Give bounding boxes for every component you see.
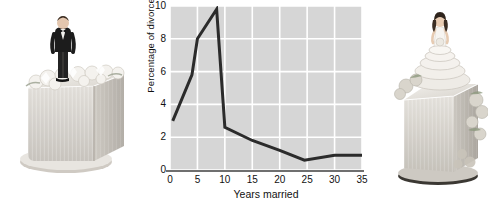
y-axis-tick-label: 6: [160, 67, 166, 77]
y-axis-tick-label: 2: [160, 132, 166, 142]
plot-area: [170, 6, 362, 170]
x-axis-tick-label: 10: [219, 175, 230, 185]
divorce-rate-line-chart: Percentage of divorces 0246810 051015202…: [132, 0, 376, 208]
bride-cake-illustration: [392, 4, 488, 200]
groom-cake-photo: [8, 16, 140, 192]
y-axis-tick-label: 8: [160, 34, 166, 44]
bride-cake-photo: [392, 4, 488, 200]
x-axis-tick-label: 5: [195, 175, 201, 185]
y-axis-title: Percentage of divorces: [145, 0, 159, 99]
y-axis-tick-label: 4: [160, 99, 166, 109]
x-axis-title: Years married: [170, 188, 362, 200]
x-axis-tick-label: 30: [329, 175, 340, 185]
groom-cake-illustration: [8, 16, 140, 192]
x-axis-tick-label: 15: [247, 175, 258, 185]
y-axis-tick-label: 10: [155, 1, 166, 11]
figure-page: Percentage of divorces 0246810 051015202…: [0, 0, 490, 208]
x-axis-tick-label: 25: [302, 175, 313, 185]
x-axis-tick-label: 0: [167, 175, 173, 185]
x-axis-tick-label: 35: [356, 175, 367, 185]
plot-wrapper: 0246810 05101520253035: [170, 6, 362, 170]
bride-figurine: [432, 12, 448, 46]
x-axis-line: [166, 170, 364, 172]
x-axis-tick-label: 20: [274, 175, 285, 185]
chart-svg: [170, 6, 362, 170]
